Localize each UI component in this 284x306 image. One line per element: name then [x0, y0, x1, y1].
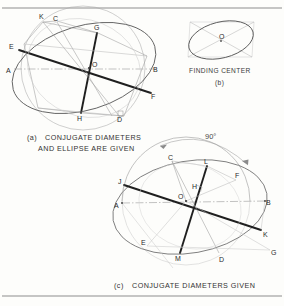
construction-oe-c — [147, 201, 186, 246]
construction-lf-c — [207, 166, 236, 180]
label-a-8: H — [77, 115, 82, 122]
figure-c-caption-line1: CONJUGATE DIAMETERS GIVEN — [132, 281, 255, 290]
chord-ea — [24, 22, 43, 44]
conjugate-diameter-jk — [124, 185, 261, 230]
arc-arrowhead-left — [160, 145, 167, 150]
label-a-1: K — [39, 13, 44, 20]
center-dot-b — [220, 40, 222, 42]
technical-drawing-canvas: C K G E A O B F H D (a) CONJUGATE DIAMET… — [0, 0, 284, 306]
chord-kc — [43, 22, 120, 117]
construction-cl-c — [172, 161, 207, 166]
label-c-7: B — [266, 199, 271, 206]
figure-c: 90° — [105, 132, 276, 290]
figure-c-caption-marker: (c) — [114, 281, 124, 290]
figure-b-caption-line1: FINDING CENTER — [189, 67, 251, 74]
label-b-center: O — [219, 33, 225, 40]
figure-page: C K G E A O B F H D (a) CONJUGATE DIAMET… — [0, 0, 284, 306]
label-c-11: M — [175, 255, 181, 262]
label-c-0: C — [168, 154, 173, 161]
label-a-5: O — [92, 61, 98, 68]
construction-bk-c — [261, 200, 265, 230]
figure-a-caption-line2: AND ELLIPSE ARE GIVEN — [38, 144, 135, 153]
label-c-6: A — [114, 202, 119, 209]
label-a-4: A — [6, 67, 11, 74]
conjugate-diameter-gh — [81, 33, 97, 113]
construction-og-c — [186, 201, 270, 250]
conjugate-diameter-lm — [180, 166, 207, 253]
label-c-5: O — [178, 193, 184, 200]
label-a-9: D — [117, 116, 122, 123]
label-c-12: D — [219, 256, 224, 263]
label-c-1: L — [204, 158, 208, 165]
label-c-8: K — [263, 231, 268, 238]
label-c-4: H — [192, 183, 197, 190]
label-c-2: F — [235, 172, 239, 179]
label-a-0: C — [53, 15, 58, 22]
construction-cd-c — [172, 161, 219, 253]
label-a-2: G — [94, 24, 99, 31]
figure-a: C K G E A O B F H D (a) CONJUGATE DIAMET… — [1, 2, 167, 153]
label-c-3: J — [118, 178, 122, 185]
label-c-9: E — [141, 239, 146, 246]
point-markers-a — [18, 32, 152, 114]
figure-b: O FINDING CENTER (b) — [185, 15, 258, 87]
conjugate-diameter-ef — [19, 50, 151, 93]
construction-ae-c — [122, 203, 173, 268]
figure-a-caption-marker: (a) — [27, 133, 37, 142]
label-c-10: G — [271, 249, 276, 256]
figure-a-caption-line1: CONJUGATE DIAMETERS — [45, 133, 141, 142]
figure-b-caption-marker: (b) — [215, 79, 224, 87]
label-a-3: E — [9, 43, 14, 50]
label-a-7: F — [151, 93, 155, 100]
label-a-6: B — [153, 66, 158, 73]
diagonal-ko — [24, 44, 147, 56]
angle-label-90: 90° — [205, 132, 216, 141]
